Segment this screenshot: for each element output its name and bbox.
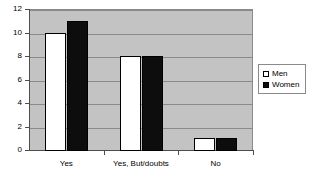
legend-label-men: Men [272,69,288,78]
bar-women-1 [142,56,163,151]
legend-swatch-men-icon [263,71,269,77]
x-tick-mark [178,151,179,155]
bar-women-0 [67,21,88,151]
x-tick-mark [104,151,105,155]
x-tick-mark [253,151,254,155]
bar-men-2 [194,138,215,151]
y-tick-label: 12 [0,5,22,13]
y-tick-label: 8 [0,52,22,60]
y-tick-label: 0 [0,146,22,154]
legend-item-women: Women [263,79,302,90]
y-tick-mark [25,56,29,57]
bar-men-1 [120,56,141,151]
bar-chart: 121086420 YesYes, But/doubtsNo Men Women [0,0,312,178]
gridline [29,10,252,11]
x-tick-label: Yes [29,159,104,168]
chart-legend: Men Women [258,64,306,94]
y-tick-label: 4 [0,99,22,107]
y-axis-line [29,9,30,151]
y-tick-mark [25,103,29,104]
y-tick-mark [25,127,29,128]
y-tick-mark [25,33,29,34]
bar-men-0 [45,33,66,151]
legend-label-women: Women [272,80,299,89]
y-tick-mark [25,9,29,10]
y-tick-mark [25,150,29,151]
bar-women-2 [216,138,237,151]
y-tick-label: 6 [0,76,22,84]
y-tick-label: 2 [0,123,22,131]
legend-item-men: Men [263,68,302,79]
legend-swatch-women-icon [263,82,269,88]
y-tick-mark [25,80,29,81]
y-tick-label: 10 [0,29,22,37]
x-tick-label: No [178,159,253,168]
x-tick-label: Yes, But/doubts [104,159,179,168]
